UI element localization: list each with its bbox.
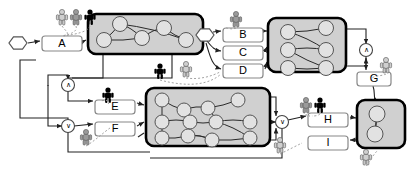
task-a[interactable]: A (42, 36, 82, 51)
edge-or-to-h (288, 116, 306, 120)
task-label: I (326, 136, 329, 148)
graph-node[interactable] (135, 31, 150, 46)
graph-node[interactable] (181, 129, 195, 143)
actor-leg-left (383, 68, 385, 73)
task-label: B (239, 28, 246, 40)
graph-node[interactable] (243, 115, 257, 129)
graph-node[interactable] (231, 93, 245, 107)
actor-arm-left (314, 103, 316, 108)
actor-arm-right (111, 93, 113, 98)
diagram-svg: ABCDEFGHI ∧∧∨∨ (0, 0, 410, 169)
container-2[interactable] (268, 18, 346, 72)
actor-arm-left (230, 17, 232, 22)
actor-a-1[interactable] (56, 9, 67, 25)
graph-node[interactable] (157, 21, 172, 36)
actor-leg-right (161, 74, 163, 79)
actor-body (383, 62, 389, 68)
actor-arm-right (93, 15, 95, 20)
actor-f-1[interactable] (80, 129, 91, 145)
task-label: F (112, 122, 119, 134)
task-d[interactable]: D (223, 64, 263, 78)
task-f[interactable]: F (95, 122, 135, 136)
graph-node[interactable] (155, 93, 169, 107)
actor-leg-right (281, 148, 283, 153)
actor-arm-right (163, 69, 165, 74)
actor-head (233, 11, 238, 16)
task-label: A (58, 37, 66, 49)
actor-body (83, 134, 89, 140)
actor-g-1[interactable] (380, 57, 391, 73)
edge-e-to-c3 (137, 103, 144, 105)
actor-mid-1[interactable] (154, 63, 165, 79)
actor-head (317, 97, 322, 102)
actor-leg-left (59, 20, 61, 25)
op-and-top[interactable]: ∧ (360, 44, 373, 57)
actor-h-1[interactable] (300, 97, 311, 113)
edge-start-to-d (206, 43, 221, 69)
actor-h-2[interactable] (314, 97, 325, 113)
actor-arm-right (309, 103, 311, 108)
actor-leg-left (183, 72, 185, 77)
graph-node[interactable] (183, 115, 197, 129)
graph-node[interactable] (205, 133, 219, 147)
edge-f-to-c3 (137, 122, 144, 126)
start-b[interactable] (196, 29, 214, 41)
actor-mid-2[interactable] (180, 61, 191, 77)
actor-body (73, 14, 79, 20)
actor-arm-left (56, 15, 58, 20)
graph-node[interactable] (243, 131, 257, 145)
actor-arm-right (189, 67, 191, 72)
actor-leg-left (157, 74, 159, 79)
actor-leg-right (91, 20, 93, 25)
edge-loopback-long (20, 60, 68, 122)
graph-node[interactable] (97, 33, 112, 48)
graph-node[interactable] (201, 101, 215, 115)
actor-arm-left (154, 69, 156, 74)
edge-c2b-to-and (346, 58, 366, 66)
actor-arm-left (70, 15, 72, 20)
actor-body (317, 102, 323, 108)
actor-arm-left (380, 63, 382, 68)
actor-leg-right (109, 98, 111, 103)
operator-label: ∨ (280, 118, 285, 125)
actor-r-1[interactable] (360, 149, 371, 165)
task-label: D (239, 64, 247, 76)
graph-node[interactable] (319, 61, 334, 76)
op-and-left[interactable]: ∧ (62, 79, 75, 92)
actor-arm-left (102, 93, 104, 98)
actor-arm-left (84, 15, 86, 20)
actor-arm-right (389, 63, 391, 68)
graph-node[interactable] (369, 106, 385, 122)
graph-node[interactable] (281, 43, 296, 58)
task-h[interactable]: H (308, 113, 348, 127)
graph-node[interactable] (319, 21, 334, 36)
actor-arm-right (89, 135, 91, 140)
graph-node[interactable] (281, 61, 296, 76)
actor-head (363, 149, 368, 154)
op-or-mid[interactable]: ∨ (276, 116, 289, 129)
actor-leg-right (63, 20, 65, 25)
graph-node[interactable] (113, 17, 128, 32)
actor-leg-right (187, 72, 189, 77)
graph-node[interactable] (209, 115, 223, 129)
actor-association-4 (186, 72, 220, 79)
task-i[interactable]: I (308, 136, 348, 150)
op-or-left[interactable]: ∨ (62, 120, 75, 133)
actor-head (83, 129, 88, 134)
graph-node[interactable] (367, 126, 383, 142)
task-e[interactable]: E (95, 100, 135, 114)
actor-association-5 (160, 74, 221, 84)
graph-node[interactable] (155, 115, 169, 129)
graph-node[interactable] (155, 131, 169, 145)
actor-leg-left (277, 148, 279, 153)
task-b[interactable]: B (223, 28, 263, 42)
task-c[interactable]: C (223, 46, 263, 60)
edge-start-to-c (207, 41, 221, 51)
graph-node[interactable] (281, 25, 296, 40)
graph-node[interactable] (179, 33, 194, 48)
actor-leg-left (87, 20, 89, 25)
actor-b-1[interactable] (230, 11, 241, 27)
start-a[interactable] (9, 37, 27, 49)
actor-a-2[interactable] (70, 9, 81, 25)
graph-node[interactable] (319, 43, 334, 58)
